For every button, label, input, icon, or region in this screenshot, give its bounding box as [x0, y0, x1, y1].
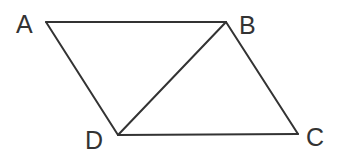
- vertex-label-a: A: [16, 10, 33, 38]
- edge-da: [46, 22, 118, 135]
- parallelogram-diagram: A B C D: [0, 0, 342, 161]
- edge-cd: [118, 134, 298, 135]
- diagonal-bd: [118, 22, 226, 135]
- edge-bc: [226, 22, 298, 134]
- vertex-label-d: D: [85, 126, 103, 154]
- vertex-label-c: C: [306, 123, 324, 151]
- vertex-label-b: B: [239, 11, 256, 39]
